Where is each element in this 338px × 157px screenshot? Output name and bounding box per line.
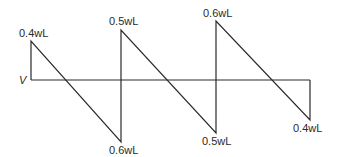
shear-diagram-svg — [0, 0, 338, 157]
label-trough-1: 0.6wL — [109, 145, 138, 156]
label-trough-2: 0.5wL — [202, 136, 231, 147]
label-peak-3: 0.6wL — [203, 8, 232, 19]
label-trough-3: 0.4wL — [293, 123, 322, 134]
shear-curve — [31, 21, 310, 142]
axis-label-v: V — [19, 75, 26, 86]
label-peak-1: 0.4wL — [19, 28, 48, 39]
label-peak-2: 0.5wL — [109, 16, 138, 27]
